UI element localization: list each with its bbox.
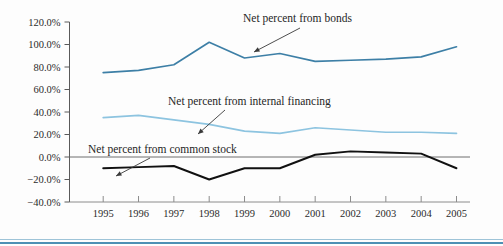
x-axis-tick-label: 2004 (411, 208, 433, 219)
annotation-label: Net percent from bonds (243, 12, 352, 25)
series-line (103, 151, 456, 179)
x-axis-tick-label: 2002 (340, 208, 361, 219)
x-axis-tick-label: 1996 (128, 208, 149, 219)
y-axis-tick-label: −20.0% (27, 174, 60, 185)
x-axis-tick-label: 1998 (199, 208, 220, 219)
y-axis-tick-label: 40.0% (33, 107, 60, 118)
annotation-label: Net percent from common stock (88, 143, 237, 156)
bottom-rule-divider (0, 239, 503, 246)
y-axis-tick-label: −40.0% (27, 197, 60, 208)
chart-annotations: Net percent from bondsNet percent from i… (88, 12, 352, 176)
annotation-label: Net percent from internal financing (168, 95, 331, 108)
bottom-rule-line-lower (0, 242, 503, 244)
line-chart: 120.0%100.0%80.0%60.0%40.0%20.0%0.0%−20.… (0, 0, 503, 246)
x-axis-tick-label: 1999 (234, 208, 255, 219)
x-axis-tick-label: 2005 (446, 208, 467, 219)
y-axis-tick-labels: 120.0%100.0%80.0%60.0%40.0%20.0%0.0%−20.… (27, 17, 60, 208)
y-axis-tick-label: 0.0% (39, 152, 61, 163)
y-axis-tick-label: 60.0% (33, 84, 60, 95)
bottom-rule-line-upper (0, 239, 503, 240)
y-axis-tick-label: 100.0% (28, 39, 61, 50)
x-axis-tick-label: 2000 (269, 208, 290, 219)
annotation-leader-line (254, 28, 300, 52)
x-axis-tick-label: 1997 (163, 208, 184, 219)
chart-series-lines (103, 42, 456, 179)
y-axis-tick-label: 20.0% (33, 129, 60, 140)
x-axis-tick-labels: 1995199619971998199920002001200220032004… (93, 208, 467, 219)
chart-figure: 120.0%100.0%80.0%60.0%40.0%20.0%0.0%−20.… (0, 0, 503, 246)
y-axis-tick-label: 120.0% (28, 17, 61, 28)
series-line (103, 42, 456, 72)
series-line (103, 115, 456, 133)
x-axis-tick-label: 1995 (93, 208, 114, 219)
x-axis-tick-label: 2001 (305, 208, 326, 219)
chart-axes (65, 22, 471, 202)
y-axis-tick-label: 80.0% (33, 62, 60, 73)
x-axis-tick-label: 2003 (375, 208, 396, 219)
